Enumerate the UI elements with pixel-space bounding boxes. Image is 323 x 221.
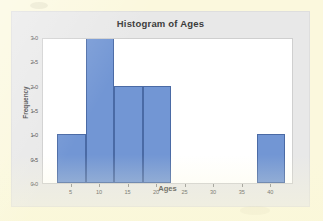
x-tick-mark bbox=[242, 184, 243, 187]
x-tick-label: 15 bbox=[118, 189, 138, 195]
y-tick-mark bbox=[32, 160, 35, 161]
chart-title: Histogram of Ages bbox=[11, 18, 310, 29]
y-tick-mark bbox=[32, 87, 35, 88]
plot-area bbox=[42, 38, 293, 184]
x-tick-mark bbox=[156, 184, 157, 187]
x-tick-mark bbox=[270, 184, 271, 187]
x-tick-mark bbox=[71, 184, 72, 187]
y-tick-mark bbox=[32, 111, 35, 112]
histogram-bar bbox=[57, 134, 86, 183]
x-tick-label: 10 bbox=[89, 189, 109, 195]
histogram-bar bbox=[114, 86, 143, 183]
histogram-bar bbox=[143, 86, 172, 183]
histogram-bar bbox=[86, 38, 115, 183]
scan-artifact bbox=[240, 206, 270, 215]
x-tick-label: 35 bbox=[232, 189, 252, 195]
screenshot-canvas: Histogram of Ages Frequency Ages 0.00.51… bbox=[0, 0, 323, 221]
x-tick-mark bbox=[213, 184, 214, 187]
scan-artifact bbox=[30, 2, 48, 9]
y-tick-mark bbox=[32, 184, 35, 185]
x-tick-label: 25 bbox=[175, 189, 195, 195]
x-tick-label: 5 bbox=[61, 189, 81, 195]
y-axis: 0.00.51.01.52.02.53.0 bbox=[4, 38, 38, 184]
x-tick-label: 20 bbox=[146, 189, 166, 195]
x-tick-label: 30 bbox=[203, 189, 223, 195]
x-tick-mark bbox=[128, 184, 129, 187]
y-tick-mark bbox=[32, 135, 35, 136]
x-tick-mark bbox=[99, 184, 100, 187]
histogram-bars bbox=[43, 39, 292, 183]
x-axis: 510152025303540 bbox=[42, 184, 293, 202]
x-tick-mark bbox=[185, 184, 186, 187]
y-tick-mark bbox=[32, 38, 35, 39]
chart-panel: Histogram of Ages Frequency Ages bbox=[11, 11, 310, 207]
y-tick-mark bbox=[32, 62, 35, 63]
histogram-bar bbox=[257, 134, 286, 183]
x-tick-label: 40 bbox=[260, 189, 280, 195]
